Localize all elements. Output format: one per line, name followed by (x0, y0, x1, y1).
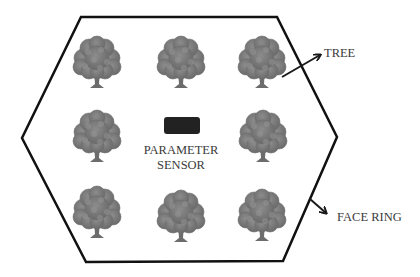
tree-icon (73, 110, 121, 162)
tree-grid (73, 36, 287, 242)
parameter-sensor-icon (164, 117, 200, 134)
tree-icon (73, 186, 121, 238)
tree-icon (239, 110, 287, 162)
face-ring-arrow-icon (310, 199, 326, 213)
face-ring-annotation-label: FACE RING (337, 210, 402, 224)
sensor-label-line2: SENSOR (157, 158, 206, 172)
diagram-canvas: PARAMETER SENSOR TREE FACE RING (0, 0, 420, 277)
tree-arrow-icon (282, 55, 320, 77)
tree-icon (157, 36, 205, 88)
tree-annotation-label: TREE (324, 46, 356, 60)
tree-icon (238, 189, 286, 241)
sensor-label-line1: PARAMETER (144, 143, 219, 157)
tree-icon (157, 190, 205, 242)
tree-icon (238, 36, 286, 88)
tree-icon (73, 36, 121, 88)
